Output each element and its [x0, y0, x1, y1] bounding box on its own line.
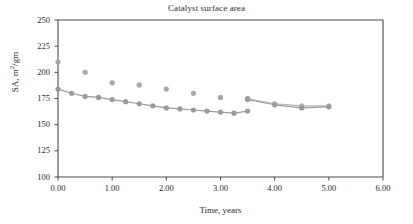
data-point — [69, 91, 74, 96]
data-point — [326, 104, 331, 109]
data-point — [191, 107, 196, 112]
data-point — [137, 82, 142, 87]
data-point — [82, 70, 87, 75]
data-point — [96, 95, 101, 100]
data-point — [204, 108, 209, 113]
data-point — [110, 97, 115, 102]
data-point — [55, 59, 60, 64]
data-point — [245, 108, 250, 113]
data-point — [55, 86, 60, 91]
data-point — [164, 86, 169, 91]
data-point — [191, 91, 196, 96]
data-point — [218, 110, 223, 115]
data-point — [299, 105, 304, 110]
data-point — [177, 106, 182, 111]
data-point — [82, 94, 87, 99]
data-point — [123, 99, 128, 104]
data-point — [137, 101, 142, 106]
data-point — [218, 95, 223, 100]
data-point — [150, 103, 155, 108]
data-point — [110, 80, 115, 85]
data-point — [245, 97, 250, 102]
series-model-line-c — [245, 97, 331, 111]
series-line — [58, 89, 248, 113]
plot-area — [0, 0, 413, 224]
data-point — [272, 102, 277, 107]
data-point — [164, 105, 169, 110]
chart-container: Catalyst surface area SA, m2/gm Time, ye… — [0, 0, 413, 224]
series-model-line-a — [55, 86, 250, 115]
data-point — [231, 111, 236, 116]
